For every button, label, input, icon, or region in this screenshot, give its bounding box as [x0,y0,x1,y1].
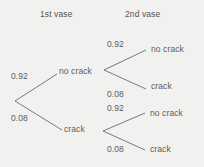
node-stage2-lower-no-crack: no crack [150,108,183,118]
probability-stage2-lower-no-crack: 0.92 [107,103,124,113]
tree-branch-lines [0,0,204,167]
probability-stage1-no-crack: 0.92 [11,71,28,81]
branch-line-upper-to-crack [104,70,146,89]
node-stage1-crack: crack [64,124,85,134]
node-stage1-no-crack: no crack [59,66,92,76]
probability-stage2-lower-crack: 0.08 [107,144,124,154]
probability-stage2-upper-crack: 0.08 [107,89,124,99]
node-stage2-upper-no-crack: no crack [151,44,184,54]
branch-line-lower-to-no-crack [103,113,145,131]
probability-stage2-upper-no-crack: 0.92 [107,39,124,49]
node-stage2-lower-crack: crack [150,144,171,154]
probability-stage1-crack: 0.08 [11,113,28,123]
branch-line-upper-to-no-crack [104,50,146,70]
node-stage2-upper-crack: crack [151,81,172,91]
column-header-2nd-vase: 2nd vase [125,9,160,19]
column-header-1st-vase: 1st vase [40,9,72,19]
probability-tree-diagram: 1st vase 2nd vase 0.92 0.08 no crack cra… [0,0,204,167]
